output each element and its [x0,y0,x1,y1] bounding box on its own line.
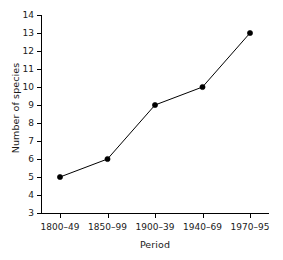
data-point-marker [57,174,62,179]
line-chart-figure: Number of species 34567891011121314 1800… [0,0,283,260]
x-axis-title: Period [41,239,269,250]
series-markers [57,30,252,179]
data-point-marker [200,84,205,89]
data-point-marker [247,30,252,35]
data-point-marker [152,102,157,107]
data-point-marker [105,156,110,161]
data-series-layer [0,0,283,260]
